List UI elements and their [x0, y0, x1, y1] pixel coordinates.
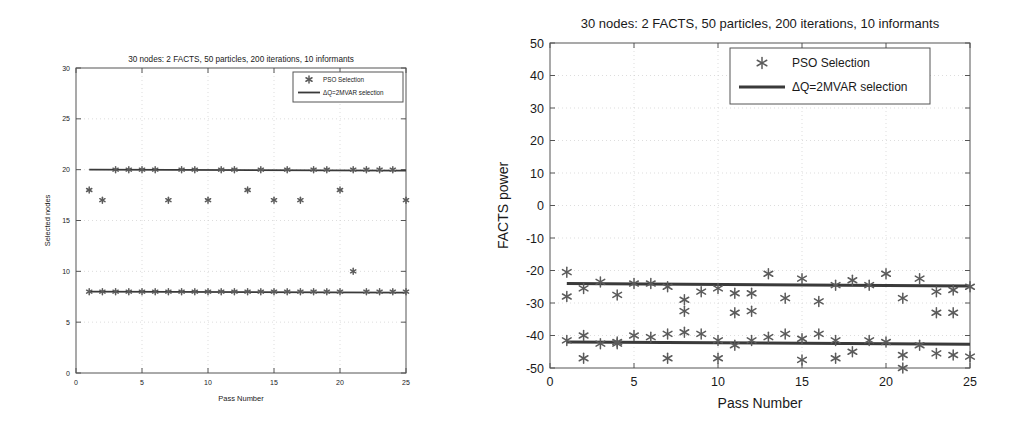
y-tick-label: 30: [530, 102, 544, 116]
x-tick-label: 25: [402, 379, 410, 386]
y-tick-label: 30: [62, 65, 70, 72]
y-tick-label: -30: [526, 297, 544, 311]
x-tick-label: 25: [963, 375, 977, 389]
y-tick-label: 10: [62, 268, 70, 275]
x-tick-label: 0: [74, 379, 78, 386]
y-tick-label: -40: [526, 329, 544, 343]
x-tick-label: 20: [336, 379, 344, 386]
x-tick-label: 0: [547, 375, 554, 389]
trendline: [89, 170, 406, 171]
y-tick-label: -20: [526, 264, 544, 278]
chart-title: 30 nodes: 2 FACTS, 50 particles, 200 ite…: [128, 55, 354, 64]
y-tick-label: 5: [66, 319, 70, 326]
x-tick-label: 15: [270, 379, 278, 386]
legend-label: ΔQ=2MVAR selection: [323, 89, 384, 97]
chart-legend[interactable]: PSO SelectionΔQ=2MVAR selection: [293, 72, 403, 102]
legend-label: PSO Selection: [323, 76, 364, 83]
y-tick-label: 10: [530, 167, 544, 181]
y-tick-label: -10: [526, 232, 544, 246]
chart-legend[interactable]: PSO SelectionΔQ=2MVAR selection: [730, 48, 930, 104]
y-tick-label: -50: [526, 362, 544, 376]
x-tick-label: 15: [795, 375, 809, 389]
chart-panel-left: 30 nodes: 2 FACTS, 50 particles, 200 ite…: [0, 0, 500, 425]
y-tick-label: 0: [66, 370, 70, 377]
x-axis-label: Pass Number: [718, 395, 803, 411]
axes: 0510152025051015202530: [62, 65, 410, 386]
y-axis-label: Selected nodes: [43, 194, 52, 246]
chart-svg-left: 30 nodes: 2 FACTS, 50 particles, 200 ite…: [0, 0, 500, 425]
y-tick-label: 50: [530, 37, 544, 51]
y-tick-label: 0: [537, 199, 544, 213]
data-points: [87, 167, 409, 295]
y-tick-label: 20: [62, 166, 70, 173]
chart-panel-right: 30 nodes: 2 FACTS, 50 particles, 200 ite…: [490, 0, 1012, 425]
y-tick-label: 25: [62, 115, 70, 122]
y-tick-label: 40: [530, 69, 544, 83]
grid-lines: [76, 68, 406, 373]
y-tick-label: 20: [530, 134, 544, 148]
chart-svg-right: 30 nodes: 2 FACTS, 50 particles, 200 ite…: [490, 0, 1012, 425]
x-axis-label: Pass Number: [218, 394, 264, 403]
y-axis-label: FACTS power: [495, 162, 511, 249]
figure-root: 30 nodes: 2 FACTS, 50 particles, 200 ite…: [0, 0, 1012, 425]
trendline: [567, 284, 970, 287]
x-tick-label: 5: [140, 379, 144, 386]
x-tick-label: 5: [631, 375, 638, 389]
y-tick-label: 15: [62, 217, 70, 224]
x-tick-label: 10: [204, 379, 212, 386]
legend-label: ΔQ=2MVAR selection: [792, 80, 908, 94]
chart-title: 30 nodes: 2 FACTS, 50 particles, 200 ite…: [581, 16, 940, 31]
x-tick-label: 20: [879, 375, 893, 389]
x-tick-label: 10: [711, 375, 725, 389]
legend-label: PSO Selection: [792, 56, 870, 70]
